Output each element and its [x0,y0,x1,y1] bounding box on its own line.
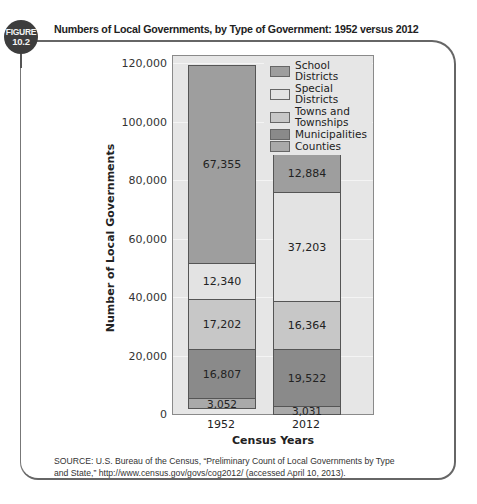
segment-municipalities-1952: 16,807 [188,349,256,399]
legend-label: Towns and Townships [295,106,350,128]
y-axis-label: Number of Local Governments [104,144,117,332]
value-label: 12,340 [203,275,242,288]
legend: School Districts Special Districts Towns… [264,57,372,155]
legend-label: Municipalities [295,129,367,140]
segment-school-districts-2012: 12,884 [273,154,341,193]
legend-swatch [270,141,290,152]
legend-swatch [270,129,290,140]
value-label: 12,884 [288,167,327,180]
segment-special-districts-1952: 12,340 [188,263,256,300]
legend-item-towns-townships: Towns and Townships [270,106,372,128]
segment-counties-1952: 3,052 [188,398,256,409]
value-label: 16,364 [288,319,327,332]
legend-item-special-districts: Special Districts [270,83,372,105]
value-label: 67,355 [203,158,242,171]
y-tick-80000: 80,000 [87,174,167,187]
x-tick-1952: 1952 [187,418,255,431]
legend-item-municipalities: Municipalities [270,129,372,140]
source-line-1: SOURCE: U.S. Bureau of the Census, “Prel… [54,455,407,467]
legend-swatch [270,89,290,100]
x-axis-label: Census Years [172,434,374,447]
y-tick-120000: 120,000 [87,57,167,70]
value-label: 3,052 [207,398,237,410]
value-label: 17,202 [203,318,242,331]
legend-label: School Districts [295,60,372,82]
y-tick-40000: 40,000 [87,291,167,304]
legend-label: Counties [295,141,341,152]
y-tick-60000: 60,000 [87,233,167,246]
value-label: 3,031 [292,405,322,417]
segment-towns-townships-2012: 16,364 [273,301,341,350]
figure-title: Numbers of Local Governments, by Type of… [54,22,418,35]
legend-swatch [270,66,290,77]
x-tick-2012: 2012 [272,418,340,431]
legend-label: Special Districts [295,83,372,105]
segment-school-districts-1952: 67,355 [188,65,256,264]
segment-towns-townships-1952: 17,202 [188,299,256,350]
badge-connector [20,54,22,68]
segment-counties-2012: 3,031 [273,406,341,415]
y-tick-100000: 100,000 [87,116,167,129]
bar-1952: 67,355 12,340 17,202 16,807 3,052 [188,56,256,415]
figure-badge: FIGURE 10.2 [4,20,38,54]
y-tick-20000: 20,000 [87,350,167,363]
source-line-2: and State,” http://www.census.gov/govs/c… [54,467,407,479]
segment-special-districts-2012: 37,203 [273,192,341,302]
legend-item-school-districts: School Districts [270,60,372,82]
value-label: 37,203 [288,241,327,254]
legend-label-line2: Townships [295,116,348,128]
value-label: 19,522 [288,372,327,385]
y-tick-0: 0 [87,408,167,421]
legend-item-counties: Counties [270,141,372,152]
figure-badge-number: 10.2 [4,37,38,47]
segment-municipalities-2012: 19,522 [273,349,341,407]
legend-swatch [270,112,290,123]
source-note: SOURCE: U.S. Bureau of the Census, “Prel… [54,455,407,479]
value-label: 16,807 [203,368,242,381]
